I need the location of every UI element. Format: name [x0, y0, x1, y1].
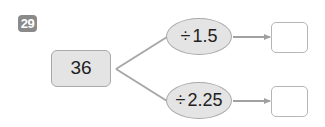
start-value-box: 36	[51, 50, 111, 87]
operation-ellipse-top: ÷1.5	[166, 18, 232, 55]
answer-box-top[interactable]	[271, 22, 308, 53]
divide-sign: ÷	[176, 90, 186, 110]
problem-number-badge: 29	[18, 15, 37, 32]
answer-box-bottom[interactable]	[271, 86, 308, 117]
operand: 1.5	[192, 26, 217, 46]
operation-ellipse-bottom: ÷2.25	[166, 82, 232, 119]
branch-line-top	[116, 37, 167, 69]
branch-line-bottom	[116, 69, 167, 101]
operand: 2.25	[187, 90, 222, 110]
divide-sign: ÷	[181, 26, 191, 46]
